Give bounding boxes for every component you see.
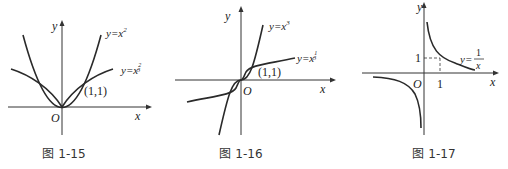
curve-label-x-squared: y=x2 — [105, 26, 127, 39]
curve-label-x-one-third: y=x13 — [296, 50, 317, 64]
y-axis-label: y — [416, 0, 423, 14]
x-axis-label: x — [134, 109, 141, 123]
curve-label-x-cubed: y=x3 — [268, 19, 290, 32]
point-label: (1,1) — [84, 84, 107, 98]
tick-y-1: 1 — [415, 51, 421, 65]
x-axis-label: x — [489, 75, 496, 89]
curve-label-numerator: 1 — [476, 47, 481, 58]
origin-label: O — [413, 77, 422, 91]
origin-label: O — [51, 111, 60, 125]
x-arrow-icon — [146, 105, 152, 110]
y-arrow-icon — [60, 20, 65, 26]
y-axis-label: y — [51, 19, 58, 33]
x-arrow-icon — [330, 78, 336, 83]
chart-1-16: y x O (1,1) y=x3 y=x13 — [170, 0, 340, 145]
x-axis-label: x — [319, 82, 326, 96]
caption-1-15: 图 1-15 — [4, 144, 124, 161]
figure-1-15: y x O (1,1) y=x2 y=x23 — [0, 0, 170, 145]
tick-x-1: 1 — [437, 77, 443, 91]
curve-label-prefix: y= — [459, 53, 472, 65]
point-label: (1,1) — [258, 65, 281, 79]
figure-1-16: y x O (1,1) y=x3 y=x13 — [170, 0, 340, 145]
curve-label-x-two-thirds: y=x23 — [120, 62, 141, 76]
y-axis-label: y — [224, 9, 231, 23]
chart-1-15: y x O (1,1) y=x2 y=x23 — [0, 0, 170, 145]
chart-1-17: y x O 1 1 y= 1 x — [340, 0, 508, 145]
y-arrow-icon — [239, 6, 244, 12]
caption-1-16: 图 1-16 — [181, 144, 301, 161]
origin-label: O — [243, 84, 252, 98]
caption-1-17: 图 1-17 — [374, 144, 494, 161]
figure-1-17: y x O 1 1 y= 1 x — [340, 0, 508, 145]
curve-label-denominator: x — [475, 60, 481, 71]
